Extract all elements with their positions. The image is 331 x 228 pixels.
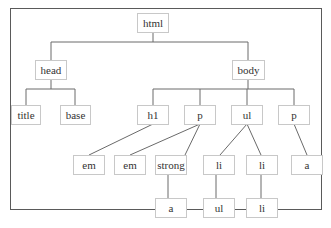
node-li: li [203,155,235,175]
dom-tree-diagram: html head body title base h1 p ul p em e… [0,0,331,228]
edge-body-children [153,89,294,105]
node-label: body [238,64,260,76]
node-label: em [82,159,95,171]
edge-p1-em2 [130,124,200,155]
node-a: a [291,155,323,175]
node-p: p [184,105,216,125]
node-li: li [246,155,278,175]
node-label: li [259,202,265,214]
node-label: base [66,109,86,121]
node-em: em [114,155,146,175]
node-label: li [259,159,265,171]
edge-h1-em1 [89,124,153,155]
node-label: p [291,109,297,121]
node-a: a [155,198,187,218]
node-ul: ul [203,198,235,218]
node-ul: ul [231,105,263,125]
node-title: title [11,105,41,125]
node-label: strong [157,159,185,171]
node-body: body [232,60,265,80]
edge-p1-strong [185,124,200,155]
node-label: html [143,17,163,29]
node-base: base [60,105,91,125]
edge-ul1-li1 [220,124,247,155]
node-em: em [73,155,105,175]
node-p: p [278,105,310,125]
node-label: a [169,202,174,214]
node-label: em [123,159,136,171]
node-label: ul [215,202,224,214]
node-label: li [216,159,222,171]
edge-html-children [51,42,248,60]
node-label: ul [243,109,252,121]
node-h1: h1 [137,105,169,125]
node-label: head [41,64,62,76]
node-li: li [246,198,278,218]
node-head: head [35,60,67,80]
node-strong: strong [155,155,187,175]
edge-head-children [26,89,75,105]
edge-ul1-li2 [247,124,261,155]
node-label: title [17,109,34,121]
node-label: p [197,109,203,121]
node-label: a [305,159,310,171]
edge-p2-a1 [294,124,307,155]
node-label: h1 [148,109,159,121]
node-html: html [137,13,169,33]
